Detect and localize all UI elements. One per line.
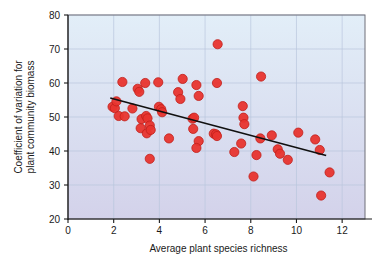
data-point xyxy=(267,131,276,140)
x-axis-title: Average plant species richness xyxy=(149,243,287,254)
data-point xyxy=(118,77,127,86)
data-point xyxy=(238,102,247,111)
data-point xyxy=(230,147,239,156)
y-tick-label: 50 xyxy=(49,112,61,123)
data-point xyxy=(249,172,258,181)
x-axis-title-text: Average plant species richness xyxy=(149,243,287,254)
y-tick-label: 70 xyxy=(49,44,61,55)
data-point xyxy=(192,80,201,89)
y-tick-label: 60 xyxy=(49,78,61,89)
x-tick-label: 0 xyxy=(65,225,71,236)
y-tick-label: 20 xyxy=(49,214,61,225)
data-point xyxy=(275,149,284,158)
data-point xyxy=(192,143,201,152)
data-point xyxy=(189,124,198,133)
data-point xyxy=(213,40,222,49)
data-point xyxy=(325,168,334,177)
data-point xyxy=(252,150,261,159)
y-axis-tick-labels: 20304050607080 xyxy=(49,10,61,225)
y-tick-label: 40 xyxy=(49,146,61,157)
x-tick-label: 8 xyxy=(248,225,254,236)
data-point xyxy=(164,134,173,143)
data-point xyxy=(311,135,320,144)
data-point xyxy=(194,91,203,100)
x-tick-label: 2 xyxy=(111,225,117,236)
y-axis-title: Coefficient of variation forplant commun… xyxy=(13,60,36,174)
data-point xyxy=(294,128,303,137)
y-axis-title-line: plant community biomass xyxy=(25,61,36,174)
data-point xyxy=(317,191,326,200)
x-tick-label: 6 xyxy=(202,225,208,236)
x-axis-ticks xyxy=(68,219,342,223)
y-tick-label: 30 xyxy=(49,180,61,191)
data-point xyxy=(178,74,187,83)
x-tick-label: 4 xyxy=(157,225,163,236)
y-axis-title-line: Coefficient of variation for xyxy=(13,60,24,174)
data-point xyxy=(176,94,185,103)
data-point xyxy=(237,139,246,148)
data-point xyxy=(146,125,155,134)
data-point xyxy=(240,120,249,129)
data-point xyxy=(212,131,221,140)
data-point xyxy=(283,155,292,164)
x-tick-label: 12 xyxy=(337,225,349,236)
data-point xyxy=(256,72,265,81)
data-point xyxy=(135,87,144,96)
chart-canvas: 024681012 20304050607080 Average plant s… xyxy=(0,0,378,271)
data-point xyxy=(141,78,150,87)
data-point xyxy=(120,112,129,121)
data-point xyxy=(145,154,154,163)
x-axis-tick-labels: 024681012 xyxy=(65,225,348,236)
data-point xyxy=(154,78,163,87)
data-point xyxy=(212,78,221,87)
y-tick-label: 80 xyxy=(49,10,61,21)
scatter-plot-figure: 024681012 20304050607080 Average plant s… xyxy=(0,0,378,271)
x-tick-label: 10 xyxy=(291,225,303,236)
